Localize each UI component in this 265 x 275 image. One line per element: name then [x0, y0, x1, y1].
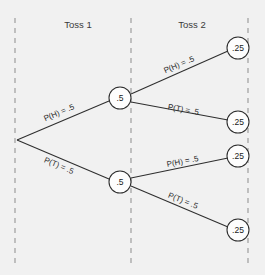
- branch-label-h-ht: P(T) = .5: [167, 102, 200, 116]
- stage-divider-group: [15, 18, 248, 265]
- branch-label-t-th: P(H) = .5: [166, 154, 200, 169]
- branch-label-root-t: P(T) = .5: [43, 155, 76, 176]
- branch-label-h-hh: P(H) = .5: [162, 54, 196, 75]
- stage-header-group: Toss 1Toss 2: [64, 19, 205, 30]
- tree-canvas: P(H) = .5P(T) = .5P(H) = .5P(T) = .5P(H)…: [0, 0, 265, 275]
- stage-header-2: Toss 2: [178, 19, 205, 30]
- probability-tree-diagram: P(H) = .5P(T) = .5P(H) = .5P(T) = .5P(H)…: [0, 0, 265, 275]
- stage1-node-h-value: .5: [116, 93, 123, 103]
- stage-header-1: Toss 1: [64, 19, 91, 30]
- stage2-node-hh-value: .25: [232, 43, 244, 53]
- stage2-node-th-value: .25: [232, 151, 244, 161]
- branch-t-tt: [131, 186, 228, 227]
- branch-label-root-h: P(H) = .5: [42, 102, 76, 123]
- stage2-node-tt-value: .25: [232, 225, 244, 235]
- stage2-node-ht-value: .25: [232, 117, 244, 127]
- branch-root-t: [17, 140, 109, 179]
- branch-h-hh: [131, 51, 228, 94]
- stage1-node-t-value: .5: [116, 177, 123, 187]
